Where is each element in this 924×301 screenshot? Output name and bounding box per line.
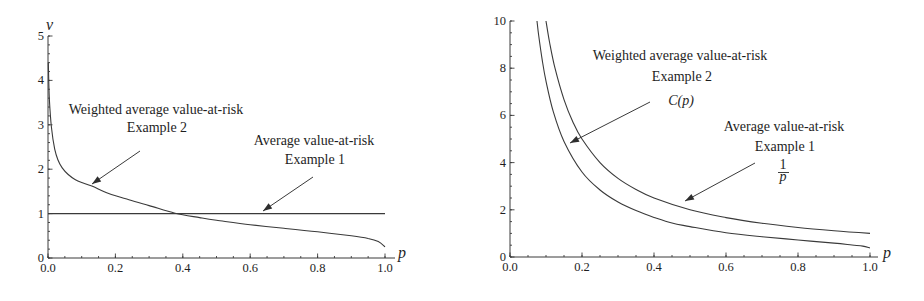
arrowhead-icon [263,203,272,211]
x-tick-label: 0.6 [718,260,734,274]
annotation-subtitle: Example 1 [285,152,345,167]
annotation-subtitle: Example 2 [652,69,712,84]
chart-weighting-functions: 0.00.20.40.60.81.0012345 ν p Weighted av… [0,0,462,301]
arrowhead-icon [570,136,580,143]
x-tick-label: 1.0 [862,260,878,274]
annotation-avar-example-1: Average value-at-risk Example 1 [254,133,375,211]
y-tick-label: 0 [500,250,506,264]
x-tick-label: 0.4 [646,260,662,274]
fraction-denominator: p [779,169,787,184]
x-tick-label: 0.8 [790,260,806,274]
x-tick-label: 0.6 [242,261,258,275]
y-tick-label: 1 [38,207,44,221]
y-tick-label: 2 [38,162,44,176]
annotation-subtitle: Example 2 [127,120,187,135]
x-axis-label: p [882,244,891,262]
x-tick-label: 0.2 [574,260,590,274]
y-tick-label: 0 [38,251,44,265]
x-tick-label: 1.0 [377,261,393,275]
annotation-title: Average value-at-risk [254,133,375,148]
annotation-weighted-avar-example-2: Weighted average value-at-risk Example 2 [69,102,244,184]
y-tick-label: 4 [500,156,507,170]
y-tick-label: 10 [494,14,507,28]
y-tick-label: 5 [38,29,44,43]
x-tick-label: 0.4 [175,261,191,275]
annotation-subtitle: Example 1 [755,139,815,154]
annotation-formula-Cp: C(p) [668,93,694,109]
y-tick-label: 4 [38,73,45,87]
annotation-title: Average value-at-risk [724,119,845,134]
arrow-icon [263,177,313,211]
annotation-formula-fraction: 1 p [778,157,789,184]
arrowhead-icon [92,176,101,184]
annotation-title: Weighted average value-at-risk [593,48,768,63]
arrow-icon [685,163,755,201]
arrowhead-icon [685,194,694,201]
y-axis-label: ν [46,16,54,33]
annotation-avar-example-1: Average value-at-risk Example 1 1 p [685,119,844,201]
y-tick-label: 2 [500,203,506,217]
y-tick-label: 8 [500,61,506,75]
y-tick-label: 3 [38,118,44,132]
arrow-icon [570,102,650,143]
y-tick-label: 6 [500,108,506,122]
x-tick-label: 0.8 [310,261,326,275]
chart-cumulative-functions: 0.00.20.40.60.81.00246810 p Weighted ave… [462,0,924,301]
x-tick-label: 0.2 [108,261,124,275]
annotation-title: Weighted average value-at-risk [69,102,244,117]
x-axis-label: p [397,244,406,262]
